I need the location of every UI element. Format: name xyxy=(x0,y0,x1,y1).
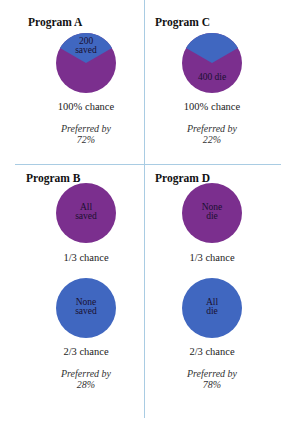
program-c-title: Program C xyxy=(155,16,210,28)
program-c-pie xyxy=(182,33,242,93)
program-c-chance: 100% chance xyxy=(152,101,272,112)
program-b-chance-2: 2/3 chance xyxy=(26,346,146,357)
pie-label-line2: die xyxy=(182,307,242,316)
pie-label-line1: 400 die xyxy=(182,73,242,82)
program-c-pie-label: 400 die xyxy=(182,73,242,82)
program-d-pie-1-label: None die xyxy=(182,203,242,221)
pie-label-line2: saved xyxy=(56,212,116,221)
program-d-pie-2-label: All die xyxy=(182,298,242,316)
program-d-chance-1: 1/3 chance xyxy=(152,252,272,263)
pie-label-line2: die xyxy=(182,212,242,221)
program-a-chance: 100% chance xyxy=(26,101,146,112)
program-b-preferred: Preferred by 28% xyxy=(26,369,146,390)
preferred-by-label: Preferred by xyxy=(26,124,146,135)
preferred-by-label: Preferred by xyxy=(152,124,272,135)
pie-label-line2: saved xyxy=(56,46,116,55)
program-a-preferred: Preferred by 72% xyxy=(26,124,146,145)
program-b-pie-2-label: None saved xyxy=(56,298,116,316)
program-c-preferred: Preferred by 22% xyxy=(152,124,272,145)
horizontal-divider xyxy=(15,164,281,165)
preferred-by-value: 72% xyxy=(26,135,146,146)
preferred-by-value: 28% xyxy=(26,380,146,391)
preferred-by-label: Preferred by xyxy=(26,369,146,380)
program-a-pie-label: 200 saved xyxy=(56,37,116,55)
preferred-by-label: Preferred by xyxy=(152,369,272,380)
program-b-pie-1-label: All saved xyxy=(56,203,116,221)
program-d-preferred: Preferred by 78% xyxy=(152,369,272,390)
program-b-chance-1: 1/3 chance xyxy=(26,252,146,263)
pie-label-line2: saved xyxy=(56,307,116,316)
program-d-chance-2: 2/3 chance xyxy=(152,346,272,357)
program-a-title: Program A xyxy=(28,16,82,28)
preferred-by-value: 78% xyxy=(152,380,272,391)
preferred-by-value: 22% xyxy=(152,135,272,146)
